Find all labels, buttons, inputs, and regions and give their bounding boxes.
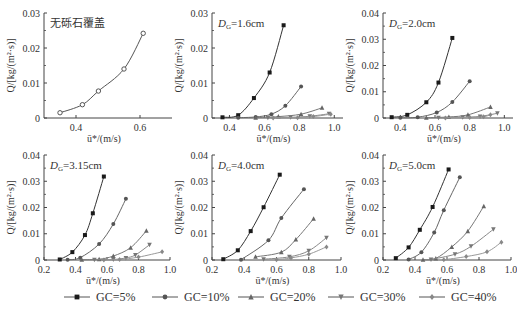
x-axis-label: ū*/(m/s) [427,133,461,145]
y-axis-label: Q/[kg/(m²·s)] [344,180,356,234]
x-tick-label: 0.8 [132,264,145,275]
legend-item-gc-40-: GC=40% [419,288,496,306]
diamond-marker [324,244,328,249]
square-marker [450,36,454,40]
series-gc-10- [236,85,303,120]
y-axis-label: Q/[kg/(m²·s)] [173,38,185,92]
y-axis-label: Q/[kg/(m²·s)] [344,38,356,92]
x-axis-label: ū*/(m/s) [257,133,291,145]
x-tick-label: 0.4 [394,122,407,133]
square-marker [220,115,224,119]
series-gc-5- [58,175,106,262]
square-marker [436,81,440,85]
series-gc-5- [221,173,281,262]
circle-marker [97,242,101,246]
y-tick-label: 0 [35,113,40,124]
y-tick-label: 0.04 [191,150,209,161]
y-tick-label: 0.03 [362,176,380,187]
circle-marker [407,257,411,261]
fit-curve [392,38,453,117]
fit-curve [222,25,283,117]
x-tick-label: 1.0 [335,264,348,275]
diamond-marker [499,240,503,245]
diamond-marker [430,294,435,300]
x-axis-label: ū*/(m/s) [426,275,460,286]
diamond-marker [488,112,492,117]
diamond-marker [442,257,446,262]
y-tick-label: 0.04 [362,150,380,161]
circle-marker [124,197,128,201]
y-tick-label: 0.04 [362,8,380,19]
circle-marker [111,222,115,226]
fit-curve [241,189,304,260]
panel-a: 00.010.020.030.40.6Q/[kg/(m²·s)]ū*/(m/s)… [5,8,172,146]
x-tick-label: 0.6 [441,264,454,275]
open-circle-marker [80,103,84,107]
x-tick-label: 0.4 [69,264,82,275]
legend-label: GC=30% [360,290,405,305]
circle-marker [419,250,423,254]
x-axis-label: ū*/(m/s) [86,275,120,286]
circle-marker [416,115,420,119]
panel-title: DG=3.15cm [49,159,102,173]
diamond-marker [160,249,164,254]
fit-curve [60,33,143,112]
diamond-marker [464,254,468,259]
fit-curve [60,177,104,260]
circle-marker [435,110,439,114]
x-tick-label: 0.8 [293,122,306,133]
legend: GC=5%GC=10%GC=20%GC=30%GC=40% [0,286,517,308]
fit-curve [68,199,126,260]
diamond-marker-icon [419,292,445,302]
x-axis-label: ū*/(m/s) [256,275,290,286]
fit-curve [223,175,279,260]
circle-marker [266,238,270,242]
circle-marker [236,116,240,120]
x-tick-label: 0.4 [223,122,236,133]
x-tick-label: 0.4 [409,264,422,275]
panel-c: 00.010.020.030.040.40.60.81.0Q/[kg/(m²·s… [344,8,513,146]
series-gc-20- [253,216,316,259]
x-tick-label: 0.8 [473,264,486,275]
panel-title: 无砾石覆盖 [50,16,105,29]
square-marker [407,245,411,249]
panel-d: 00.010.020.030.040.20.40.60.81.0Q/[kg/(m… [5,150,176,287]
triangle-up-marker [320,105,325,110]
panel-title: DG=4.0cm [217,159,265,173]
panel-b: 00.010.020.030.40.60.81.0Q/[kg/(m²·s)]ū*… [173,8,343,146]
square-marker [282,23,286,27]
legend-item-gc-20-: GC=20% [238,288,315,306]
square-marker [447,167,451,171]
circle-marker [66,258,70,262]
x-tick-label: 0.6 [429,122,442,133]
square-marker [390,115,394,119]
y-tick-label: 0 [374,113,379,124]
square-marker [252,96,256,100]
diamond-marker [485,249,489,254]
y-tick-label: 0.02 [23,202,41,213]
square-marker [249,229,253,233]
square-marker [394,256,398,260]
square-marker [83,233,87,237]
panel-title: DG=2.0cm [388,17,436,31]
legend-item-gc-10-: GC=10% [152,288,229,306]
circle-marker [269,112,273,116]
y-tick-label: 0.01 [191,78,209,89]
x-tick-label: 1.0 [328,122,341,133]
y-tick-label: 0.01 [362,228,380,239]
open-circle-marker [141,31,145,35]
y-tick-label: 0.03 [23,8,41,19]
circle-marker [468,79,472,83]
y-tick-label: 0.01 [362,86,380,97]
fit-curve [238,87,301,118]
figure: 00.010.020.030.40.6Q/[kg/(m²·s)]ū*/(m/s)… [0,0,517,310]
x-tick-label: 0.2 [206,264,219,275]
series-gc-5- [390,36,455,119]
square-marker [91,211,95,215]
square-marker [278,173,282,177]
circle-marker [442,208,446,212]
series-gc-10- [66,197,128,262]
circle-marker [398,116,402,120]
y-tick-label: 0.02 [23,43,41,54]
legend-label: GC=40% [451,290,496,305]
